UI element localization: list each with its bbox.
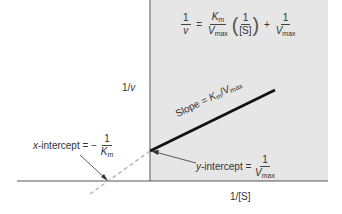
km-over-vmax-fraction: Km Vmax — [208, 12, 228, 37]
y-intercept-label: y-intercept = 1 Vmax — [196, 155, 276, 179]
y-axis-label: 1/v — [122, 83, 135, 93]
one-over-s-fraction: 1 [S] — [239, 13, 251, 36]
lhs-fraction: 1 v — [181, 13, 191, 36]
one-over-vmax-fraction: 1 Vmax — [276, 13, 296, 37]
lineweaver-burk-equation: 1 v = Km Vmax ( 1 [S] ) + 1 Vmax — [180, 12, 297, 37]
x-intercept-label: x-intercept = − 1 Km — [33, 134, 114, 158]
x-axis-label: 1/[S] — [230, 192, 251, 202]
x-intercept-pointer — [80, 155, 106, 179]
